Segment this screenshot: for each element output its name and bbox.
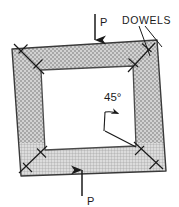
engineering-figure: P P DOWELS 45° [0,0,179,207]
frame-opening [41,66,136,150]
angle-label: 45° [104,91,121,103]
frame-body [0,40,179,183]
bottom-load-label: P [87,195,94,207]
top-load-label: P [100,16,107,28]
bottom-band-grid-fill [0,143,179,183]
diagram-canvas: P P DOWELS 45° [0,0,179,207]
dowels-label: DOWELS [122,14,171,26]
